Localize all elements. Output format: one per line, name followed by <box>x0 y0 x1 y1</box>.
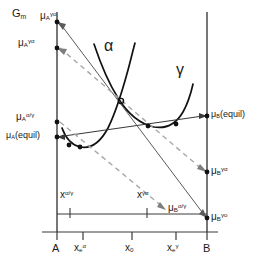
label-mu-A-gamma-alpha: μAγα <box>18 38 35 49</box>
tangent-line-alpha-gamma-dashed <box>60 122 166 210</box>
label-mu-B-alpha-gamma: μBα/γ <box>168 203 186 214</box>
dot-mu-B-gamma-o <box>205 216 210 221</box>
label-mu-B-equil: μB(equil) <box>211 110 245 120</box>
label-tick-xe-alpha: xeα <box>74 243 86 254</box>
label-tick-x0: x0 <box>125 243 133 254</box>
label-mu-A-equil: μA(equil) <box>6 131 40 141</box>
dot-mu-A-gamma-alpha <box>55 46 60 51</box>
dot-mu-A-equil <box>55 135 60 140</box>
bottom-ticks-group <box>57 232 207 240</box>
label-x-gamma-alpha: xγα <box>137 190 149 200</box>
label-tick-B: B <box>203 243 210 254</box>
label-mu-B-gamma-o: μBγo <box>211 212 227 223</box>
curve-label-gamma: γ <box>176 62 184 78</box>
curve-gamma <box>94 44 193 127</box>
label-mu-A-gamma-o: μAγo <box>40 11 56 22</box>
inner-ticks-group <box>70 208 147 218</box>
dot-alpha-equil-tangency <box>78 145 83 150</box>
dot-mu-B-gamma-alpha <box>205 170 210 175</box>
dot-alpha-left <box>67 143 72 148</box>
dot-mu-A-alpha-gamma <box>55 120 60 125</box>
y-axis-label: Gm <box>12 8 26 20</box>
common-tangent-line <box>57 113 207 140</box>
dot-gamma-equil-tangency <box>174 122 179 127</box>
label-mu-A-alpha-gamma: μAα/γ <box>16 112 34 123</box>
dot-mu-B-equil <box>205 114 210 119</box>
label-tick-xe-gamma: xeγ <box>167 243 179 254</box>
label-x-alpha-gamma: xα/γ <box>60 190 73 200</box>
label-mu-B-gamma-alpha: μBγα <box>211 166 228 177</box>
label-tick-A: A <box>52 243 59 254</box>
dot-gamma-at-x0 <box>146 124 151 129</box>
figure-canvas: Gm μAγo μAγα μAα/γ μA(equil) μB(equil) μ… <box>0 0 258 260</box>
curve-label-alpha: α <box>104 38 113 54</box>
